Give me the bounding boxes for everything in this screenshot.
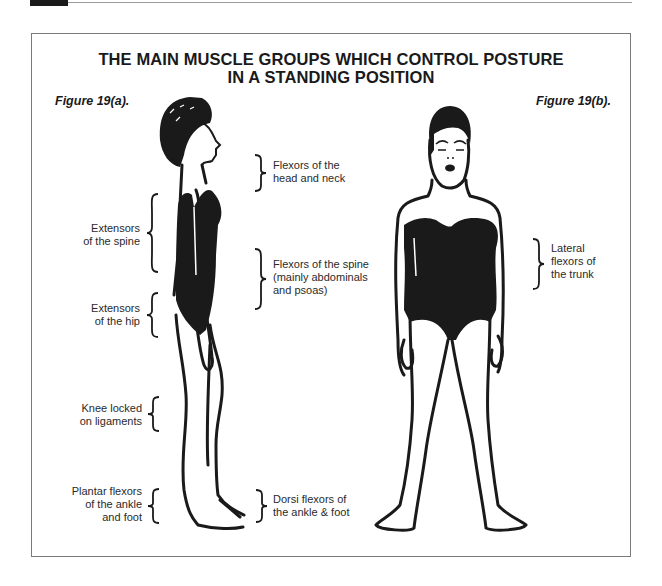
label-knee-locked: Knee locked on ligaments — [50, 402, 142, 428]
label-line: of the ankle — [40, 498, 142, 511]
label-lateral-flexors: Lateral flexors of the trunk — [551, 242, 621, 281]
label-line: the trunk — [551, 268, 621, 281]
label-line: Lateral — [551, 242, 621, 255]
label-line: and psoas) — [273, 284, 393, 297]
hair — [160, 97, 212, 167]
label-flexors-head-neck: Flexors of the head and neck — [273, 159, 383, 185]
brace-dorsi-flexors — [254, 489, 268, 523]
title-line-2: IN A STANDING POSITION — [31, 68, 631, 86]
label-line: (mainly abdominals — [273, 271, 393, 284]
swimsuit — [404, 218, 498, 340]
label-line: Extensors — [60, 302, 140, 315]
swimsuit — [176, 190, 221, 335]
label-line: of the hip — [60, 315, 140, 328]
label-line: Knee locked — [50, 402, 142, 415]
label-dorsi-flexors: Dorsi flexors of the ankle & foot — [273, 493, 383, 519]
diagram-title: THE MAIN MUSCLE GROUPS WHICH CONTROL POS… — [31, 50, 631, 86]
page-header-rule — [68, 2, 632, 3]
label-line: of the spine — [60, 235, 140, 248]
brace-knee-locked — [147, 396, 161, 432]
label-line: on ligaments — [50, 415, 142, 428]
label-flexors-spine: Flexors of the spine (mainly abdominals … — [273, 258, 393, 297]
side-view-figure — [150, 95, 260, 540]
figure-b-label: Figure 19(b). — [536, 94, 611, 108]
label-line: flexors of — [551, 255, 621, 268]
label-line: Flexors of the — [273, 159, 383, 172]
page-corner-block — [30, 0, 68, 6]
brace-flexors-head-neck — [253, 154, 267, 192]
label-line: Dorsi flexors of — [273, 493, 383, 506]
brace-lateral-flexors — [531, 238, 545, 290]
front-view-figure — [370, 100, 540, 540]
label-plantar-flexors: Plantar flexors of the ankle and foot — [40, 485, 142, 524]
label-extensors-spine: Extensors of the spine — [60, 222, 140, 248]
label-line: Flexors of the spine — [273, 258, 393, 271]
hair — [429, 106, 471, 156]
label-extensors-hip: Extensors of the hip — [60, 302, 140, 328]
label-line: head and neck — [273, 172, 383, 185]
label-line: Extensors — [60, 222, 140, 235]
label-line: the ankle & foot — [273, 506, 383, 519]
figure-a-label: Figure 19(a). — [55, 94, 129, 108]
brace-extensors-spine — [146, 193, 160, 273]
brace-plantar-flexors — [147, 488, 161, 524]
label-line: Plantar flexors — [40, 485, 142, 498]
label-line: and foot — [40, 511, 142, 524]
title-line-1: THE MAIN MUSCLE GROUPS WHICH CONTROL POS… — [31, 50, 631, 68]
brace-flexors-spine — [253, 248, 267, 310]
brace-extensors-hip — [146, 292, 160, 338]
